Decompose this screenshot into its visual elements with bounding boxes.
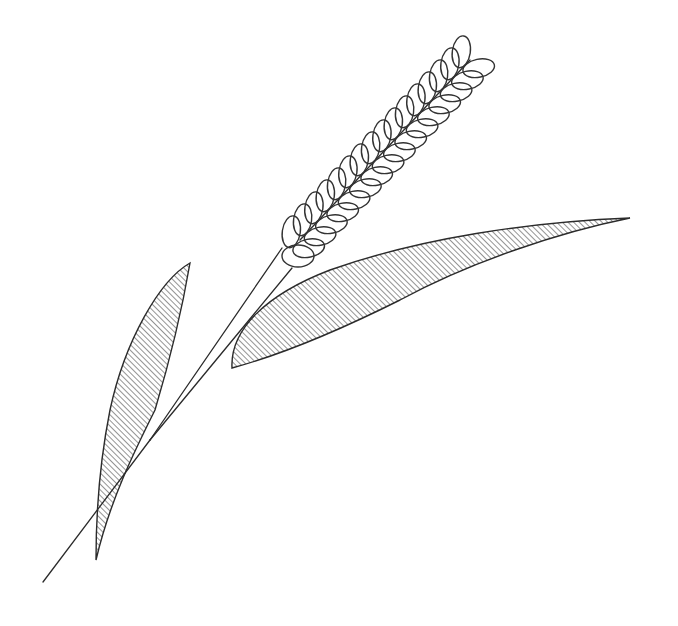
grain-spikelet [393, 128, 428, 152]
grain-spikelet [439, 47, 461, 81]
grain-spikelet [303, 224, 338, 248]
grain-spikelet [371, 152, 406, 176]
wheat-ear [280, 35, 496, 267]
grain-spikelet [405, 116, 440, 140]
grain-spikelet [439, 80, 474, 104]
grain-spikelet [416, 104, 451, 128]
grain-spikelet [337, 188, 372, 212]
grain-spikelet [450, 35, 472, 69]
grain-spikelet [314, 179, 336, 213]
grain-spikelet [393, 95, 415, 129]
grain-spikelet [371, 119, 393, 153]
grain-spikelet [348, 143, 370, 177]
grain-spikelet [427, 59, 449, 93]
grain-spikelet [461, 56, 496, 80]
grain-spikelet [348, 176, 383, 200]
grain-spikelet [314, 212, 349, 236]
grain-spikelet [450, 68, 485, 92]
grain-spikelet [280, 215, 302, 249]
grain-spikelet [325, 200, 360, 224]
grain-spikelet [382, 107, 404, 141]
right-leaf [232, 218, 630, 368]
grain-spikelet [359, 131, 381, 165]
left-leaf [96, 263, 190, 560]
grain-spikelet [416, 71, 438, 105]
grain-spikelet [405, 83, 427, 117]
grain-spikelet [359, 164, 394, 188]
grain-spikelet [427, 92, 462, 116]
grain-spikelet [303, 191, 325, 225]
grain-spikelet [325, 167, 347, 201]
grain-spikelet [291, 203, 313, 237]
wheat-illustration [0, 0, 678, 626]
grain-spikelet [382, 140, 417, 164]
grain-spikelet [337, 155, 359, 189]
